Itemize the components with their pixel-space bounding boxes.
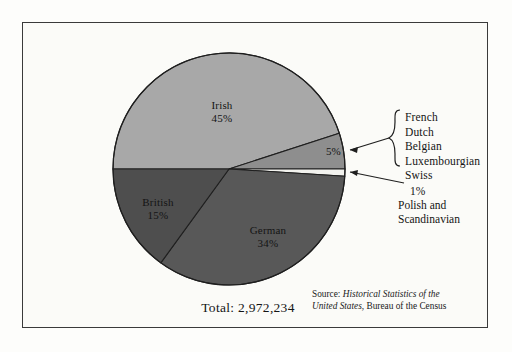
slice-label-irish-name: Irish	[211, 99, 232, 111]
callout-item-dutch: Dutch	[405, 125, 480, 140]
slice-label-german-percent: 34%	[228, 237, 308, 250]
source-note-prefix: Source:	[312, 289, 343, 299]
slice-label-british: British 15%	[122, 196, 194, 222]
source-note-line1: Source: Historical Statistics of the	[312, 288, 446, 300]
slice-label-irish-percent: 45%	[186, 112, 258, 125]
source-note: Source: Historical Statistics of the Uni…	[312, 288, 446, 313]
callout-item-swiss: Swiss	[405, 168, 480, 183]
slice-label-irish: Irish 45%	[186, 99, 258, 125]
callout-minor-percent: 1%	[410, 184, 460, 198]
slice-label-group-percent: 5%	[326, 145, 341, 157]
slice-label-german: German 34%	[228, 224, 308, 250]
callout-group-list: French Dutch Belgian Luxembourgian Swiss	[405, 110, 480, 183]
source-note-title-line2: United States	[312, 301, 362, 311]
source-note-rest: , Bureau of the Census	[362, 301, 446, 311]
slice-label-german-name: German	[250, 224, 287, 236]
source-note-title-line1: Historical Statistics of the	[343, 289, 440, 299]
callout-minor-line1: Polish and	[398, 198, 460, 212]
slice-label-british-percent: 15%	[122, 209, 194, 222]
callout-item-belgian: Belgian	[405, 139, 480, 154]
callout-minor-line2: Scandinavian	[398, 212, 460, 226]
callout-minor-group: 1% Polish and Scandinavian	[398, 184, 460, 227]
slice-label-british-name: British	[142, 196, 173, 208]
source-note-line2: United States, Bureau of the Census	[312, 300, 446, 312]
chart-page: Irish 45% British 15% German 34% 5% Fren…	[0, 0, 512, 352]
callout-item-french: French	[405, 110, 480, 125]
total-label: Total: 2,972,234	[163, 300, 333, 316]
callout-item-luxembourgian: Luxembourgian	[405, 154, 480, 169]
